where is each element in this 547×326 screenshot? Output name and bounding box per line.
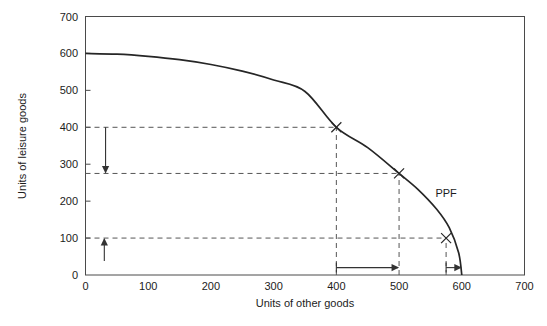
x-tick-label: 500 xyxy=(390,280,408,292)
x-tick-label: 600 xyxy=(453,280,471,292)
ppf-chart: PPF 0100200300400500600700 0100200300400… xyxy=(0,0,547,326)
annotations-group: PPF xyxy=(101,127,462,272)
ppf-label: PPF xyxy=(435,187,457,199)
x-tick-label: 700 xyxy=(515,280,533,292)
marked-points-group xyxy=(331,122,451,243)
chart-canvas: PPF 0100200300400500600700 0100200300400… xyxy=(0,0,547,326)
x-tick-label: 400 xyxy=(327,280,345,292)
marked-point xyxy=(441,233,451,243)
y-tick-label: 600 xyxy=(60,47,78,59)
y-axis-tick-marks xyxy=(86,53,91,238)
x-axis-tick-labels: 0100200300400500600700 xyxy=(82,280,533,292)
y-tick-label: 100 xyxy=(60,232,78,244)
y-tick-label: 0 xyxy=(72,269,78,281)
y-tick-label: 300 xyxy=(60,158,78,170)
y-tick-label: 700 xyxy=(60,11,78,23)
arrow-head xyxy=(101,238,108,246)
arrow-head xyxy=(102,166,109,174)
x-tick-label: 200 xyxy=(202,280,220,292)
y-axis-title: Units of leisure goods xyxy=(16,93,28,199)
x-tick-label: 100 xyxy=(139,280,157,292)
y-tick-label: 200 xyxy=(60,195,78,207)
y-tick-label: 500 xyxy=(60,84,78,96)
x-axis-title: Units of other goods xyxy=(256,297,355,309)
x-tick-label: 300 xyxy=(264,280,282,292)
guide-lines-group xyxy=(86,127,447,275)
plot-frame xyxy=(86,17,525,276)
ppf-curve-group xyxy=(86,53,462,275)
ppf-curve xyxy=(86,53,462,275)
y-axis-tick-labels: 0100200300400500600700 xyxy=(60,11,78,282)
x-tick-label: 0 xyxy=(82,280,88,292)
y-tick-label: 400 xyxy=(60,121,78,133)
arrow-head xyxy=(392,264,400,271)
